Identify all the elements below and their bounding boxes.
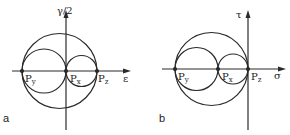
panel-b-label-pz: Pz [251,72,261,84]
panel-b-y-arrow-icon [246,10,251,18]
point-name: P [98,73,105,84]
panel-b-point-pz [247,68,250,71]
panel-a-label-px: Px [70,74,81,86]
point-subscript: y [32,78,36,86]
panel-a-y-axis-label: γ/2 [57,6,73,16]
panel-b-label-py: Py [178,72,189,84]
point-name: P [70,73,77,84]
panel-b-point-px [217,68,220,71]
point-name: P [251,71,258,82]
point-subscript: x [77,78,81,86]
point-subscript: z [105,78,109,86]
point-name: P [178,71,185,82]
panel-b-y-axis-label: τ [236,10,242,20]
panel-b-x-axis-label: σ [274,71,281,81]
panel-a-label-pz: Pz [98,74,108,86]
panel-a-point-px [65,70,68,73]
panel-a-x-axis-label: ε [123,74,128,84]
panel-b-label: b [159,113,165,124]
mohr-circles-figure [0,0,290,135]
panel-a-point-py [21,70,24,73]
panel-a-label-py: Py [25,74,36,86]
point-name: P [25,73,32,84]
panel-b-point-py [174,68,177,71]
panel-a-label: a [3,113,9,124]
panel-b-label-px: Px [222,72,233,84]
panel-b-diagram [162,10,286,130]
panel-a-diagram [12,10,131,130]
point-name: P [222,71,229,82]
point-subscript: x [229,76,233,84]
point-subscript: y [185,76,189,84]
point-subscript: z [258,76,262,84]
